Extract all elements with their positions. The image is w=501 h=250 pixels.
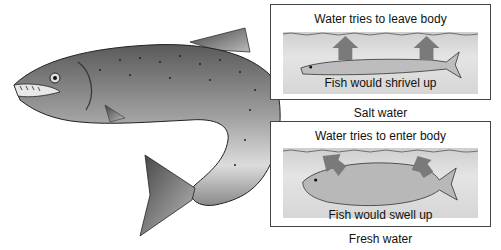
salt-panel-caption: Fish would shrivel up <box>271 76 490 90</box>
salt-water-label: Salt water <box>270 106 491 120</box>
fish-body <box>14 45 280 206</box>
fresh-panel-title: Water tries to enter body <box>271 129 490 143</box>
fresh-panel-caption: Fish would swell up <box>271 208 490 222</box>
arrow-out-icon <box>332 36 358 60</box>
arrow-out-icon <box>414 36 440 60</box>
large-fish-illustration <box>0 0 290 250</box>
salt-panel-title: Water tries to leave body <box>271 12 490 26</box>
fresh-water-panel: Water tries to enter body Fish would swe… <box>270 121 491 227</box>
salt-water-panel: Water tries to leave body Fish would shr… <box>270 4 491 100</box>
water-surface-wave <box>283 33 478 35</box>
tail-fin <box>140 155 195 236</box>
fresh-water-label: Fresh water <box>270 232 491 246</box>
water-surface-wave <box>283 150 478 152</box>
thin-fish <box>301 52 461 78</box>
